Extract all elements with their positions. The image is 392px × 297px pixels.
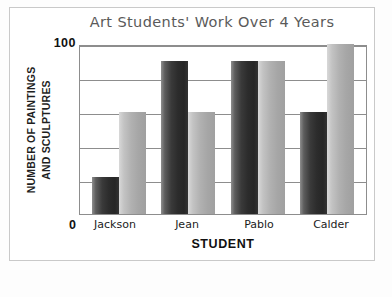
y-axis-label-line1: NUMBER OF PAINTINGS	[25, 67, 37, 194]
bar-groups	[80, 46, 366, 214]
x-axis-label: STUDENT	[79, 237, 367, 251]
bar-pablo-sculptures	[258, 61, 285, 214]
bar-group-pablo	[231, 46, 285, 214]
x-tick-label-pablo: Pablo	[231, 218, 287, 231]
x-axis-category-labels: JacksonJeanPabloCalder	[79, 218, 367, 234]
bar-jean-sculptures	[188, 112, 215, 214]
x-tick-label-calder: Calder	[303, 218, 359, 231]
plot-area	[79, 45, 367, 215]
bar-pablo-paintings	[231, 61, 258, 214]
chart-page: Art Students' Work Over 4 Years NUMBER O…	[0, 0, 392, 297]
x-tick-label-jean: Jean	[159, 218, 215, 231]
y-tick-label-top: 100	[46, 36, 76, 50]
y-tick-label-bottom: 0	[46, 218, 76, 232]
bar-jackson-sculptures	[119, 112, 146, 214]
bar-jean-paintings	[161, 61, 188, 214]
x-tick-label-jackson: Jackson	[87, 218, 143, 231]
chart-title: Art Students' Work Over 4 Years	[0, 14, 392, 30]
bar-group-jean	[161, 46, 215, 214]
bar-calder-sculptures	[327, 44, 354, 214]
bar-jackson-paintings	[92, 177, 119, 214]
y-axis-label: NUMBER OF PAINTINGS AND SCULPTURES	[22, 45, 56, 215]
bar-calder-paintings	[300, 112, 327, 214]
bar-group-jackson	[92, 46, 146, 214]
bar-group-calder	[300, 46, 354, 214]
y-axis-label-line2: AND SCULPTURES	[39, 46, 54, 214]
